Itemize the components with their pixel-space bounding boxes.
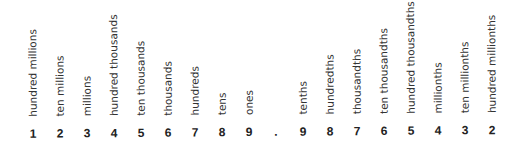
place-label: thousands [161,61,173,116]
place-label: tenths [297,81,309,115]
place-label: hundred millions [26,29,39,117]
place-column: hundred millionths2 [478,0,505,149]
place-label: ten millionths [458,42,471,114]
place-column: millionths4 [424,0,451,150]
place-column: tenths9 [289,0,316,151]
place-column: millions3 [73,0,100,152]
place-column: ten thousandths6 [370,0,397,150]
place-digit: 2 [479,123,505,137]
place-label: millions [80,76,92,117]
place-label: hundred thousandths [404,1,417,114]
place-column: thousandths7 [343,0,370,150]
place-digit: 3 [74,126,100,140]
place-label: thousandths [350,49,363,114]
place-digit: 8 [317,124,343,138]
place-digit: 4 [101,126,127,140]
place-column: ten millionths3 [451,0,478,149]
place-digit: 3 [452,123,478,137]
place-label: hundredths [323,54,335,114]
place-column: ten millions2 [46,0,73,153]
place-label: ten thousandths [377,28,390,114]
place-value-chart: hundred millions1ten millions2millions3h… [0,0,524,153]
place-label: ten thousands [134,41,147,116]
place-label: hundreds [188,66,200,115]
place-digit: 5 [398,124,424,138]
place-digit: 9 [290,125,316,139]
place-digit: 4 [425,123,451,137]
place-column: hundredths8 [316,0,343,151]
place-label: millionths [431,62,443,113]
place-digit: 8 [209,125,235,139]
place-digit: 9 [236,125,262,139]
place-column: hundred millions1 [19,0,46,153]
place-digit: 6 [155,126,181,140]
place-column: tens8 [208,0,235,151]
place-label: hundred thousands [107,14,120,116]
place-label: hundred millionths [485,15,498,113]
place-column: hundred thousandths5 [397,0,424,150]
place-digit: 1 [20,127,46,141]
decimal-point: . [263,125,289,139]
place-digit: 5 [128,126,154,140]
decimal-point-column: . [262,0,289,151]
place-column: hundreds7 [181,0,208,152]
place-label: tens [216,93,228,116]
place-digit: 7 [182,125,208,139]
place-digit: 6 [371,124,397,138]
place-column: hundred thousands4 [100,0,127,152]
place-column: thousands6 [154,0,181,152]
place-label: ones [243,90,255,115]
place-digit: 2 [47,126,73,140]
place-column: ones9 [235,0,262,151]
place-digit: 7 [344,124,370,138]
place-label: ten millions [53,55,65,116]
place-column: ten thousands5 [127,0,154,152]
